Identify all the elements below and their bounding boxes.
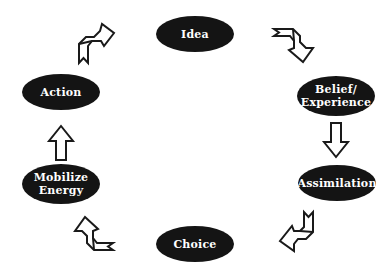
node-idea-label: Idea [181,28,209,41]
arrow-assimilation-to-choice-icon [280,212,313,251]
arrow-belief-to-assimilation-icon [324,123,348,157]
node-action-label: Action [40,86,81,99]
arrow-choice-to-mobilize-icon [75,217,113,250]
node-mobilize-label-line1: Mobilize [34,171,89,184]
node-mobilize-energy: Mobilize Energy [22,164,100,204]
node-mobilize-label-line2: Energy [39,184,83,197]
arrow-action-to-idea-icon [79,24,114,63]
arrow-mobilize-to-action-icon [49,126,73,160]
node-belief-label-line1: Belief/ [315,83,357,96]
node-choice-label: Choice [173,238,216,251]
node-choice: Choice [156,226,234,262]
node-assimilation-label: Assimilation [297,177,376,190]
node-belief-experience: Belief/ Experience [297,76,375,116]
node-action: Action [22,74,100,110]
node-assimilation: Assimilation [298,165,376,201]
arrow-idea-to-belief-icon [274,29,313,62]
node-belief-label-line2: Experience [301,96,371,109]
node-idea: Idea [156,16,234,52]
